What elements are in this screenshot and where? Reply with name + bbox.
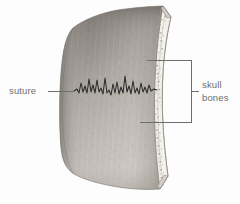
skull-bones-label-line1: skull	[202, 79, 222, 90]
suture-label: suture	[9, 85, 36, 96]
anatomy-figure: suture skull bones	[0, 0, 240, 204]
skull-bone-illustration: suture skull bones	[0, 0, 240, 204]
skull-bones-label-line2: bones	[202, 92, 229, 103]
